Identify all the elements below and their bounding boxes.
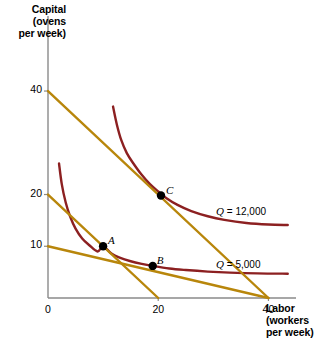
data-points-group	[99, 191, 165, 270]
curve-label-q5k: Q = 5,000	[216, 258, 260, 270]
data-point-c	[157, 191, 165, 199]
curve-label-q12k: Q = 12,000	[216, 205, 266, 217]
curve-label-q-symbol: Q	[216, 205, 224, 217]
y-tick-label-40: 40	[12, 84, 42, 96]
data-point-a	[99, 242, 107, 250]
x-tick-label-20: 20	[144, 304, 172, 316]
data-point-b	[149, 262, 157, 270]
x-tick-label-0: 0	[34, 304, 62, 316]
point-label-a: A	[108, 234, 115, 246]
point-label-b: B	[157, 254, 164, 266]
x-tick-label-40: 40	[254, 304, 282, 316]
point-label-c: C	[166, 184, 173, 196]
curve-label-value: = 5,000	[224, 259, 260, 270]
curve-label-q-symbol: Q	[216, 258, 224, 270]
curve-label-value: = 12,000	[224, 206, 266, 217]
y-tick-label-20: 20	[12, 188, 42, 200]
y-axis-title: Capital (ovens per week)	[2, 4, 66, 39]
y-tick-label-10: 10	[12, 239, 42, 251]
